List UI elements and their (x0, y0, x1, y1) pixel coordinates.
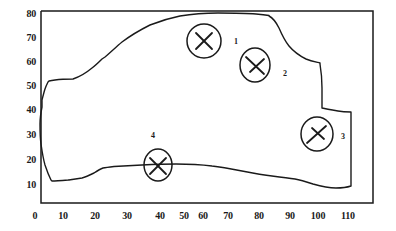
site-marker-1[interactable] (187, 24, 221, 58)
x-tick-label-90: 90 (285, 211, 295, 221)
lake-boundary-path (40, 13, 351, 188)
figure-container: 80 70 60 50 40 30 20 10 0 10 20 30 40 50… (0, 0, 396, 231)
site-3-cross-stroke-a (307, 126, 326, 143)
site-label-1: 1 (234, 38, 238, 46)
site-label-3: 3 (341, 133, 345, 141)
y-tick-label-60: 60 (26, 57, 36, 67)
x-tick-label-60: 60 (198, 211, 208, 221)
site-2-cross-stroke-a (246, 57, 264, 74)
x-tick-label-0: 0 (33, 211, 38, 221)
y-tick-label-80: 80 (26, 9, 36, 19)
figure-canvas (0, 0, 396, 231)
x-tick-label-110: 110 (341, 211, 355, 221)
x-tick-label-100: 100 (311, 211, 325, 221)
x-tick-label-10: 10 (58, 211, 68, 221)
y-tick-label-30: 30 (26, 130, 36, 140)
site-marker-2[interactable] (240, 48, 270, 82)
y-tick-label-70: 70 (26, 33, 36, 43)
x-tick-label-40: 40 (155, 211, 165, 221)
site-label-2: 2 (283, 70, 287, 78)
y-tick-label-20: 20 (26, 155, 36, 165)
x-tick-label-50: 50 (179, 211, 189, 221)
x-tick-label-80: 80 (254, 211, 264, 221)
y-tick-label-50: 50 (26, 81, 36, 91)
region-outline (40, 13, 351, 188)
y-tick-label-40: 40 (26, 105, 36, 115)
site-2-cross-stroke-b (250, 59, 264, 72)
x-tick-label-30: 30 (122, 211, 132, 221)
site-marker-3[interactable] (301, 117, 333, 151)
x-tick-label-20: 20 (90, 211, 100, 221)
x-tick-label-70: 70 (223, 211, 233, 221)
y-tick-label-10: 10 (26, 180, 36, 190)
site-label-4: 4 (151, 132, 155, 140)
